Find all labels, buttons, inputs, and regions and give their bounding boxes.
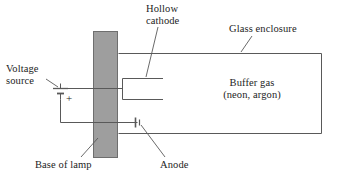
label-hollow-cathode: Hollow cathode [146,3,179,27]
label-buffer-gas: Buffer gas (neon, argon) [198,77,306,101]
label-hollow-cathode-line2: cathode [146,15,179,27]
label-anode: Anode [160,159,189,171]
leader-hollow-cathode [146,27,158,77]
label-voltage-source-line2: source [6,75,39,87]
label-base-of-lamp: Base of lamp [35,159,92,171]
label-voltage-source: Voltage source [6,63,39,87]
leader-voltage-source [46,79,58,87]
leader-glass-enclosure [241,36,252,52]
label-glass-enclosure: Glass enclosure [229,23,297,35]
label-hollow-cathode-line1: Hollow [146,3,179,15]
label-voltage-source-line1: Voltage [6,63,39,75]
label-buffer-gas-line1: Buffer gas [198,77,306,89]
hollow-cathode-body [123,79,164,100]
diagram-canvas: Hollow cathode Glass enclosure Voltage s… [0,0,338,184]
label-battery-polarity-plus: + [66,92,72,104]
leader-anode [141,125,165,157]
label-buffer-gas-line2: (neon, argon) [198,89,306,101]
